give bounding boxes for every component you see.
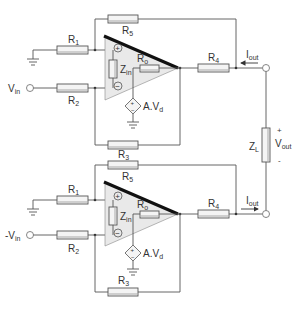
label-vin: Vin [8, 83, 20, 95]
resistor-zl [262, 128, 270, 162]
resistor-ro [140, 65, 159, 72]
ground-icon [127, 261, 139, 275]
label-r1: R1 [68, 34, 79, 46]
svg-text:+: + [115, 192, 120, 201]
stage-top: R1 Vin R2 R3 R [8, 15, 270, 161]
dependent-source-icon: + − [125, 98, 141, 114]
ground-icon [27, 200, 39, 215]
output-terminal [263, 65, 270, 72]
resistor-zin [109, 207, 117, 225]
circuit-diagram: R1 Vin R2 R3 R [0, 0, 300, 312]
svg-text:+: + [131, 247, 135, 253]
vout-plus: + [277, 126, 282, 135]
resistor-zin [109, 60, 117, 78]
stage-bottom: R1 -Vin R2 R3 R5 [5, 161, 270, 296]
label-r5: R5 [122, 171, 133, 183]
resistor-r4 [198, 210, 229, 218]
label-neg-vin: -Vin [5, 230, 21, 242]
label-r2: R2 [68, 95, 79, 107]
svg-text:−: − [115, 82, 120, 91]
label-vout: Vout [275, 138, 291, 150]
label-source: A.Vd [143, 101, 163, 113]
label-r4: R4 [208, 52, 219, 64]
svg-text:+: + [115, 44, 120, 53]
resistor-r4 [198, 64, 229, 72]
label-zl: ZL [249, 141, 259, 153]
resistor-r3 [108, 141, 138, 149]
label-iout: Iout [246, 49, 259, 61]
load: ZL + Vout - [249, 72, 291, 218]
label-iout: Iout [246, 195, 259, 207]
dependent-source-icon: + − [125, 245, 141, 261]
resistor-r5 [108, 15, 138, 23]
input-terminal [27, 232, 34, 239]
svg-text:−: − [131, 254, 135, 260]
resistor-ro [140, 211, 159, 218]
resistor-r1 [57, 196, 88, 204]
label-r1: R1 [68, 184, 79, 196]
svg-text:−: − [115, 229, 120, 238]
label-r5: R5 [122, 25, 133, 37]
resistor-r5 [108, 161, 138, 169]
label-r2: R2 [68, 243, 79, 255]
resistor-r2 [57, 84, 88, 92]
resistor-r1 [57, 46, 88, 54]
label-r4: R4 [208, 198, 219, 210]
svg-text:+: + [131, 100, 135, 106]
svg-text:−: − [131, 107, 135, 113]
ground-icon [27, 50, 39, 65]
ground-icon [127, 114, 139, 128]
resistor-r2 [57, 231, 88, 239]
label-r3: R3 [118, 149, 129, 161]
label-source: A.Vd [143, 248, 163, 260]
resistor-r3 [108, 288, 138, 296]
vout-minus: - [278, 156, 281, 165]
output-terminal [263, 211, 270, 218]
label-r3: R3 [118, 275, 129, 287]
input-terminal [27, 85, 34, 92]
